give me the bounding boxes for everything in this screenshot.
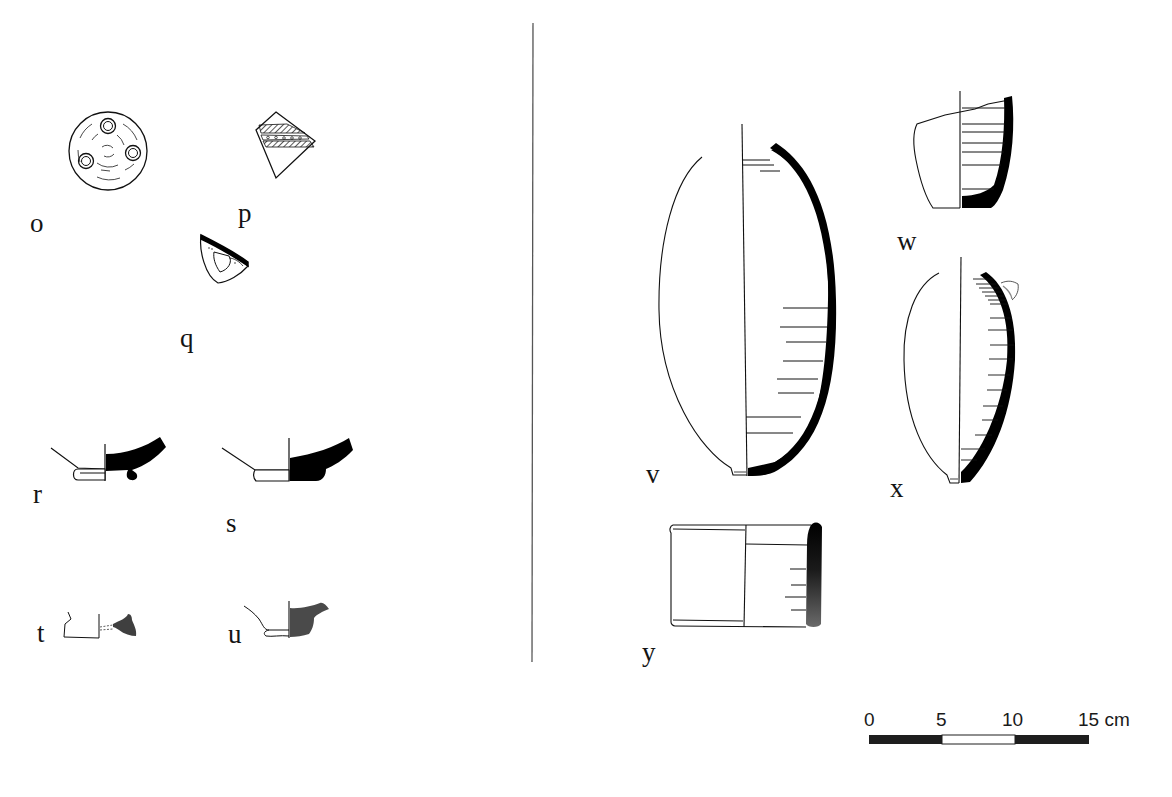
label-t: t xyxy=(37,618,45,648)
object-r-base-profile xyxy=(51,437,166,481)
object-s-base-profile xyxy=(222,438,353,481)
object-q-fragment xyxy=(201,235,248,283)
label-x: x xyxy=(890,473,904,503)
object-p-decorated-sherd xyxy=(256,112,315,178)
plate-divider xyxy=(532,23,533,662)
object-u-base-fragment xyxy=(244,601,329,638)
scale-tick-10: 10 xyxy=(1002,709,1023,730)
pottery-plate: o p q r s t xyxy=(0,0,1172,797)
object-v-ovoid-vessel xyxy=(659,124,836,476)
label-u: u xyxy=(228,619,242,649)
label-y: y xyxy=(642,637,656,667)
label-v: v xyxy=(646,459,660,489)
label-p: p xyxy=(238,198,252,228)
object-t-base-fragment xyxy=(64,612,136,638)
object-y-cylindrical-vessel xyxy=(670,523,822,628)
object-w-cup-fragment xyxy=(914,91,1013,208)
scale-segment-0-5 xyxy=(869,735,942,744)
label-o: o xyxy=(30,208,44,238)
object-x-ovoid-vessel xyxy=(904,257,1018,483)
scale-tick-0: 0 xyxy=(864,709,875,730)
scale-segment-10-15 xyxy=(1015,735,1089,744)
scale-tick-5: 5 xyxy=(936,709,947,730)
scale-bar: 0 5 10 15 cm xyxy=(864,709,1130,744)
label-q: q xyxy=(180,323,194,353)
label-s: s xyxy=(226,508,237,538)
label-w: w xyxy=(897,226,917,256)
object-o-disc xyxy=(69,112,147,190)
label-r: r xyxy=(33,479,42,509)
scale-segment-5-10 xyxy=(942,735,1015,744)
scale-tick-15-cm: 15 cm xyxy=(1078,709,1130,730)
